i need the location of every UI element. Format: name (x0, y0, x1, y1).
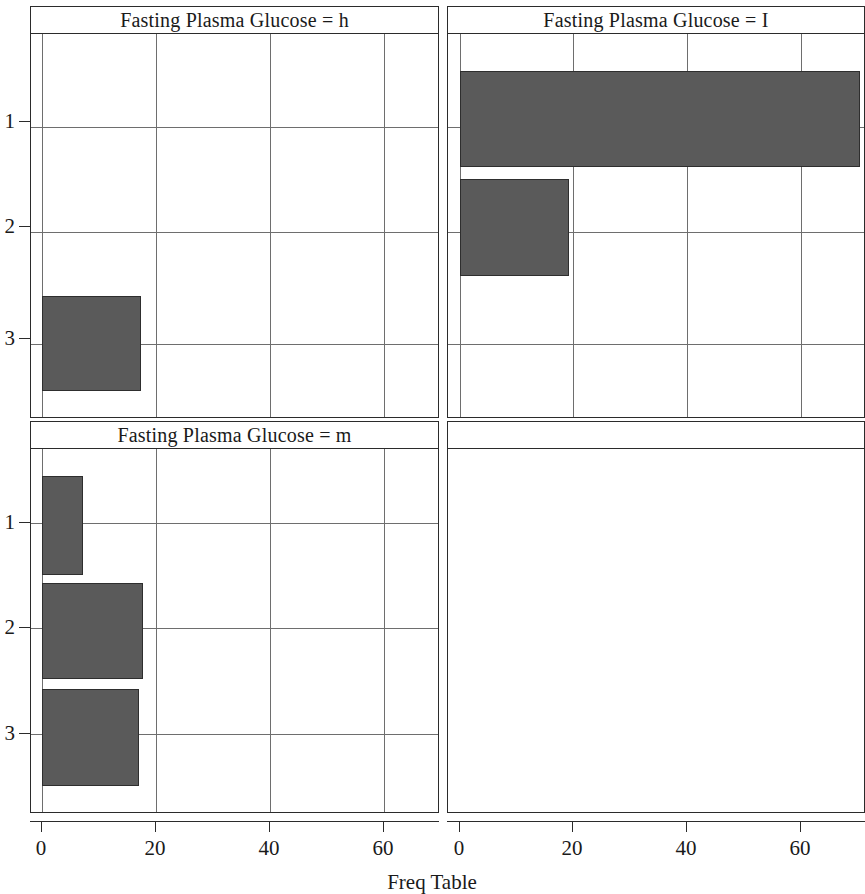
gridline-h-1 (31, 523, 438, 524)
gridline-v-60 (384, 34, 385, 417)
ytick-mark-top-1 (19, 121, 30, 122)
panel-strip-header-m: Fasting Plasma Glucose = m (30, 421, 439, 449)
xtick-mark-right-20 (572, 821, 573, 832)
panel-empty (447, 421, 865, 813)
xtick-label-left-0: 0 (21, 838, 61, 859)
plot-area-empty (447, 448, 865, 813)
xtick-mark-left-60 (383, 821, 384, 832)
xtick-label-left-40: 40 (249, 838, 289, 859)
gridline-h-1 (31, 127, 438, 128)
xtick-label-right-60: 60 (780, 838, 820, 859)
xtick-label-right-20: 20 (552, 838, 592, 859)
ytick-mark-bottom-2 (19, 627, 30, 628)
xtick-label-left-60: 60 (363, 838, 403, 859)
xaxis-line-right (447, 821, 865, 822)
gridline-h-3 (448, 344, 864, 345)
panel-strip-header-h: Fasting Plasma Glucose = h (30, 6, 439, 34)
xtick-mark-left-40 (269, 821, 270, 832)
gridline-v-20 (156, 34, 157, 417)
gridline-v-60 (384, 449, 385, 812)
xtick-label-right-0: 0 (439, 838, 479, 859)
xtick-mark-left-20 (155, 821, 156, 832)
ytick-mark-bottom-1 (19, 522, 30, 523)
xtick-label-right-40: 40 (666, 838, 706, 859)
bar-category-1 (460, 71, 860, 167)
xtick-mark-right-40 (686, 821, 687, 832)
gridline-h-2 (31, 232, 438, 233)
ytick-label-top-2: 2 (0, 216, 15, 237)
xtick-mark-left-0 (41, 821, 42, 832)
bar-category-2 (460, 179, 569, 276)
panel-strip-header-I: Fasting Plasma Glucose = I (447, 6, 865, 34)
ytick-label-bottom-3: 3 (0, 723, 15, 744)
panel-fasting-plasma-glucose-h: Fasting Plasma Glucose = h (30, 6, 439, 418)
xtick-mark-right-0 (459, 821, 460, 832)
ytick-label-top-1: 1 (0, 111, 15, 132)
panel-fasting-plasma-glucose-m: Fasting Plasma Glucose = m (30, 421, 439, 813)
ytick-mark-bottom-3 (19, 733, 30, 734)
bar-category-1 (42, 476, 83, 575)
panel-strip-header-empty (447, 421, 865, 449)
gridline-v-20 (156, 449, 157, 812)
panel-strip-label-h: Fasting Plasma Glucose = h (120, 9, 349, 32)
bar-category-3 (42, 689, 139, 786)
bar-category-2 (42, 583, 143, 679)
ytick-label-bottom-2: 2 (0, 617, 15, 638)
ytick-mark-top-2 (19, 226, 30, 227)
xaxis-line-left (30, 821, 439, 822)
plot-area-I (447, 33, 865, 418)
panel-fasting-plasma-glucose-I: Fasting Plasma Glucose = I (447, 6, 865, 418)
panel-strip-label-I: Fasting Plasma Glucose = I (543, 9, 768, 32)
ytick-mark-top-3 (19, 338, 30, 339)
plot-area-m (30, 448, 439, 813)
xtick-label-left-20: 20 (135, 838, 175, 859)
bar-category-3 (42, 296, 141, 391)
xtick-mark-right-60 (800, 821, 801, 832)
gridline-v-40 (270, 34, 271, 417)
ytick-label-bottom-1: 1 (0, 512, 15, 533)
plot-area-h (30, 33, 439, 418)
panel-strip-label-m: Fasting Plasma Glucose = m (117, 424, 351, 447)
ytick-label-top-3: 3 (0, 328, 15, 349)
x-axis-title: Freq Table (0, 872, 864, 893)
gridline-v-40 (270, 449, 271, 812)
